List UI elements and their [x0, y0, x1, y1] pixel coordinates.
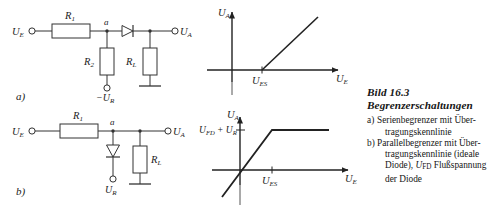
caption-item-a: a) Serienbegrenzer mit Über- tragungsken…	[367, 115, 498, 137]
circuit-a-bias-label: −UR	[96, 92, 115, 105]
caption-item-a-line1: Serienbegrenzer mit Über-	[377, 115, 476, 125]
circuit-a-caption-letter: a)	[16, 90, 26, 103]
circuit-a-r2-body	[100, 48, 114, 75]
circuit-b-r1-body	[60, 124, 98, 138]
circuit-a-rl-body	[143, 48, 157, 75]
figure-title: Begrenzerschaltungen	[367, 99, 498, 112]
caption-item-a-marker: a)	[367, 115, 377, 137]
figure-page: UE UA R1 R2 RL a −UR a) UE	[0, 0, 498, 214]
chart-a-y-axis-label: UA	[218, 7, 231, 20]
circuit-b-input-label: UE	[12, 126, 25, 139]
circuit-a-diode-triangle	[122, 26, 133, 37]
figure-caption-list: a) Serienbegrenzer mit Über- tragungsken…	[367, 115, 498, 185]
chart-b-y-tick-label: UFD + UR	[199, 125, 237, 136]
circuit-a-input-terminal	[29, 28, 35, 34]
circuit-b-bias-label: UR	[105, 184, 117, 197]
circuit-b-rl-label: RL	[150, 154, 161, 167]
chart-a-data-line	[262, 17, 318, 70]
chart-b-annotation-ues: UES	[262, 175, 278, 188]
circuit-b-output-terminal	[165, 128, 171, 134]
chart-b-x-axis-label: UE	[345, 173, 358, 186]
circuit-b-r1-label: R1	[72, 110, 83, 123]
circuit-a-r2-label: R2	[83, 56, 94, 69]
circuit-a-bias-terminal	[104, 85, 110, 91]
circuit-a-output-label: UA	[180, 26, 193, 39]
circuit-b-caption-letter: b)	[16, 185, 26, 198]
circuit-a-node-label: a	[104, 17, 109, 27]
caption-item-a-text: Serienbegrenzer mit Über- tragungskennli…	[377, 115, 498, 137]
caption-item-b: b) Parallelbegrenzer mit Über- tragungsk…	[367, 138, 498, 185]
caption-item-a-line2: tragungskennlinie	[377, 127, 498, 138]
caption-item-b-line2: tragungskennlinie (ideale	[377, 149, 498, 160]
caption-item-b-line3-post: Flußspannung	[431, 160, 486, 170]
circuit-b-output-label: UA	[173, 126, 186, 139]
caption-item-b-line1: Parallelbegrenzer mit Über-	[377, 138, 481, 148]
circuit-a-r1-label: R1	[64, 10, 75, 23]
figure-number: Bild 16.3	[367, 86, 498, 99]
chart-b-y-axis-label: UA	[227, 109, 240, 122]
circuit-a-output-terminal	[172, 28, 178, 34]
circuit-b-input-terminal	[29, 128, 35, 134]
caption-item-b-line4: der Diode	[377, 174, 498, 185]
circuit-a	[29, 24, 178, 91]
circuit-b-diode-triangle	[107, 145, 120, 157]
caption-item-b-text: Parallelbegrenzer mit Über- tragungskenn…	[377, 138, 498, 185]
circuit-b-bias-terminal	[110, 176, 116, 182]
chart-a-x-axis-label: UE	[336, 73, 349, 86]
circuit-b-node-label: a	[110, 117, 115, 127]
circuit-a-input-label: UE	[12, 26, 25, 39]
caption-item-b-marker: b)	[367, 138, 377, 185]
chart-transfer-characteristic-a	[207, 12, 338, 95]
circuit-b-rl-body	[133, 146, 147, 173]
circuit-b	[29, 124, 171, 184]
caption-item-b-symbol-sub: FD	[422, 164, 431, 172]
caption-item-b-line3-pre: Diode),	[385, 160, 415, 170]
caption-item-b-line3: Diode), UFD Flußspannung	[377, 160, 498, 173]
circuit-a-rl-label: RL	[125, 56, 136, 69]
chart-a-annotation-ues: UES	[252, 75, 268, 88]
circuit-a-r1-body	[52, 24, 90, 38]
figure-caption-block: Bild 16.3 Begrenzerschaltungen a) Serien…	[367, 86, 498, 185]
